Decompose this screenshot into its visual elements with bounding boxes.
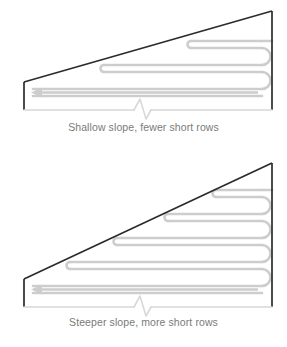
steep-baseline	[24, 296, 272, 316]
steep-row2-left-cap	[165, 214, 168, 221]
steep-row4-left-cap	[67, 262, 71, 269]
caption-steeper-slope: Steeper slope, more short rows	[0, 316, 287, 328]
diagram-page: Shallow slope, fewer short rows	[0, 0, 287, 347]
steep-bend-1	[262, 197, 271, 214]
shallow-break-symbol	[134, 99, 151, 119]
shallow-row-middle-left-cap	[101, 65, 105, 72]
steep-serpentine-path	[33, 190, 272, 293]
shallow-bend-upper-inner	[262, 48, 271, 65]
steep-break-symbol	[134, 296, 151, 316]
steep-bend-4	[262, 269, 271, 286]
shallow-baseline	[24, 99, 272, 119]
steep-bend-2	[262, 221, 271, 238]
caption-shallow-slope: Shallow slope, fewer short rows	[0, 121, 287, 133]
steep-bend-3	[262, 245, 271, 262]
shallow-row-top-left-cap	[188, 41, 192, 48]
shallow-bend-lower-inner	[262, 72, 271, 89]
steep-row3-left-cap	[114, 238, 117, 245]
